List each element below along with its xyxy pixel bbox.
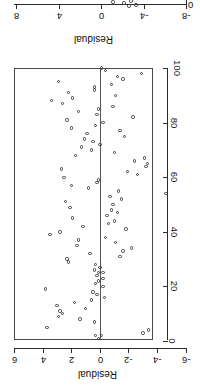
data-point <box>131 115 134 118</box>
data-point <box>164 192 167 195</box>
data-point <box>58 309 61 312</box>
data-point <box>110 208 113 211</box>
data-point <box>122 1 125 4</box>
data-point <box>123 135 126 138</box>
plot-frame <box>14 68 153 340</box>
data-point <box>118 255 121 258</box>
data-point <box>77 238 80 241</box>
data-point <box>101 285 104 288</box>
data-point <box>130 246 133 249</box>
data-point <box>98 143 101 146</box>
data-point <box>103 296 106 299</box>
data-point <box>83 137 86 140</box>
data-point <box>90 298 93 301</box>
data-point <box>78 317 81 320</box>
data-point <box>70 184 73 187</box>
data-point <box>85 132 88 135</box>
data-point <box>127 4 130 7</box>
data-point <box>88 252 91 255</box>
top-panel-axis-title: Residual <box>74 34 113 45</box>
data-point <box>68 206 71 209</box>
residual-tick <box>100 348 101 353</box>
data-point <box>141 331 144 334</box>
data-point <box>120 197 123 200</box>
data-point <box>45 326 48 329</box>
residual-tick <box>14 348 15 353</box>
data-point <box>95 113 98 116</box>
case-number-tick-label: 100 <box>169 59 185 77</box>
residual-tick-label: 0 <box>93 355 108 366</box>
data-point <box>91 140 94 143</box>
data-point <box>97 178 100 181</box>
residual-tick-label: -2 <box>121 355 136 366</box>
case-number-tick-label: 60 <box>169 168 180 186</box>
data-point <box>111 0 114 3</box>
residual-tick-label: 2 <box>64 355 79 366</box>
case-number-tick-label: 40 <box>169 223 180 241</box>
residual-tick <box>186 348 187 353</box>
data-point <box>75 244 78 247</box>
data-point <box>143 156 146 159</box>
residual-tick <box>157 348 158 353</box>
residual-tick <box>128 348 129 353</box>
data-point <box>90 148 93 151</box>
data-point <box>105 214 108 217</box>
top-panel-right-edge-label: 0 <box>188 0 193 11</box>
residual-tick <box>71 348 72 353</box>
residual-tick-label: -4 <box>150 355 165 366</box>
data-point <box>55 304 58 307</box>
data-point <box>111 105 114 108</box>
data-point <box>44 287 47 290</box>
data-point <box>136 173 139 176</box>
data-point <box>121 77 124 80</box>
data-point <box>93 85 96 88</box>
data-point <box>60 167 63 170</box>
data-point <box>117 189 120 192</box>
data-point <box>108 195 111 198</box>
data-point <box>93 268 96 271</box>
data-point <box>98 266 101 269</box>
case-number-axis-title: Case number <box>186 176 200 187</box>
data-point <box>80 145 83 148</box>
top-clipped-panel: 840-4-8 Residual 0 <box>0 0 200 52</box>
data-point <box>97 279 100 282</box>
case-number-tick-label: 80 <box>169 114 180 132</box>
data-point <box>62 176 65 179</box>
case-number-tick-label: 20 <box>169 277 180 295</box>
data-point <box>113 219 116 222</box>
residual-tick-label: 6 <box>7 355 22 366</box>
data-point <box>111 203 114 206</box>
data-point <box>144 165 147 168</box>
data-point <box>65 118 68 121</box>
data-point <box>91 290 94 293</box>
data-point <box>70 126 73 129</box>
data-point <box>100 66 103 69</box>
data-point <box>93 320 96 323</box>
residual-tick-label: 4 <box>36 355 51 366</box>
data-point <box>124 227 127 230</box>
data-point <box>101 121 104 124</box>
data-point <box>101 277 104 280</box>
residual-tick-label: -6 <box>179 355 194 366</box>
data-point <box>97 107 100 110</box>
data-point <box>95 274 98 277</box>
data-point <box>48 233 51 236</box>
zero-reference-line <box>100 68 101 340</box>
data-point <box>121 249 124 252</box>
data-point <box>116 75 119 78</box>
data-point <box>129 0 132 3</box>
data-point <box>134 3 137 6</box>
case-number-axis-line <box>167 68 168 340</box>
residual-tick <box>43 348 44 353</box>
data-point <box>133 159 136 162</box>
data-point <box>87 186 90 189</box>
data-point <box>58 230 61 233</box>
main-residual-panel: 100806040200 Case number 6420-2-4-6 Resi… <box>0 56 200 385</box>
data-point <box>65 257 68 260</box>
residual-axis-title: Residual <box>78 369 117 380</box>
data-point <box>81 225 84 228</box>
figure-canvas: 840-4-8 Residual 0 100806040200 Case num… <box>0 0 200 385</box>
